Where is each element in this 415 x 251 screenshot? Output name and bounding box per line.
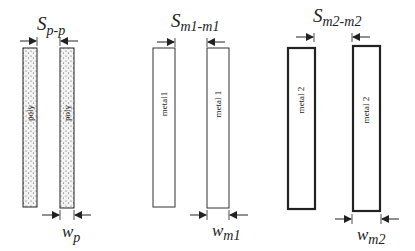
bar-label: metal1 bbox=[159, 92, 169, 117]
metal2-group: Sm2-m2 metal 2 metal 2 wm2 bbox=[288, 5, 399, 247]
metal2-bar-2 bbox=[353, 46, 380, 211]
metal2-bar-1 bbox=[288, 48, 315, 209]
bar-label: metal 2 bbox=[361, 97, 371, 124]
bar-label: poly bbox=[25, 105, 35, 122]
poly-group: Sp-p poly poly wp bbox=[20, 13, 91, 245]
poly-bar-2 bbox=[60, 48, 74, 208]
spacing-label-metal2: Sm2-m2 bbox=[313, 5, 361, 29]
spacing-label-poly: Sp-p bbox=[37, 13, 65, 38]
width-label-metal1: wm1 bbox=[212, 221, 240, 243]
width-label-metal2: wm2 bbox=[357, 225, 385, 247]
layout-rules-diagram: Sp-p poly poly wp Sm1-m1 metal1 metal 1 bbox=[0, 0, 415, 251]
width-label-poly: wp bbox=[62, 222, 80, 245]
bar-label: poly bbox=[62, 105, 72, 122]
bar-label: metal 1 bbox=[213, 91, 223, 118]
spacing-label-metal1: Sm1-m1 bbox=[171, 10, 219, 34]
metal1-bar-1 bbox=[153, 48, 175, 207]
metal1-bar-2 bbox=[207, 48, 229, 208]
metal1-group: Sm1-m1 metal1 metal 1 wm1 bbox=[153, 10, 248, 243]
poly-bar-1 bbox=[23, 48, 37, 207]
bar-label: metal 2 bbox=[296, 87, 306, 114]
